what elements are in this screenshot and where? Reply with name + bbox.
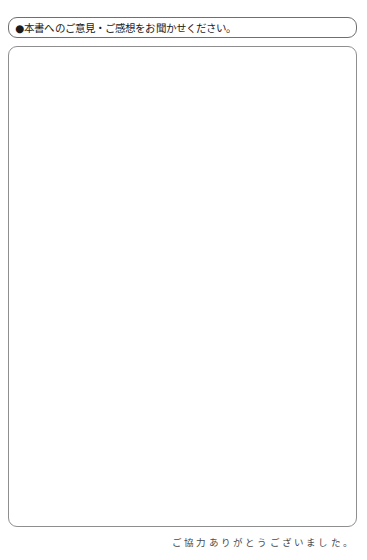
thank-you-note: ご協力ありがとうございました。 xyxy=(8,536,357,550)
questionnaire-sheet: ●本書へのご意見・ご感想をお聞かせください。 ご協力ありがとうございました。 xyxy=(0,0,367,560)
feedback-answer-area[interactable] xyxy=(8,46,357,527)
thank-you-text: ご協力ありがとうございました。 xyxy=(172,536,357,550)
feedback-prompt-box: ●本書へのご意見・ご感想をお聞かせください。 xyxy=(8,17,357,38)
feedback-prompt-label: ●本書へのご意見・ご感想をお聞かせください。 xyxy=(9,22,236,34)
